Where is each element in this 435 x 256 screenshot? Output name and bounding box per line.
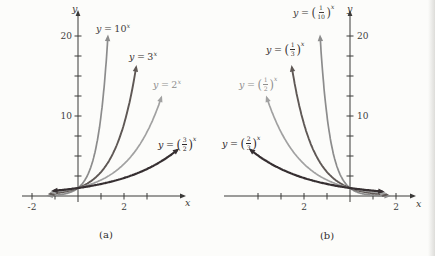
- x-tick-label: 2: [388, 203, 404, 212]
- label-exponent: x: [257, 135, 261, 142]
- x-axis-label: x: [185, 198, 190, 208]
- label-exponent: x: [177, 79, 181, 86]
- y-axis-label: y: [72, 4, 77, 14]
- label-exponent: x: [301, 41, 305, 48]
- fraction: 110: [317, 5, 325, 20]
- figure-b-plot: [218, 0, 435, 256]
- y-tick-label: 20: [52, 32, 72, 41]
- close-paren: ): [296, 43, 300, 57]
- y-equals-2-to-x-label: y=2x: [153, 80, 181, 90]
- label-base: 10: [114, 24, 126, 34]
- fraction-denominator: 3: [291, 50, 295, 57]
- y-equals-10-to-x-arrowhead: [105, 35, 110, 42]
- equals-sign: =: [166, 140, 174, 150]
- close-paren: ): [326, 6, 330, 20]
- label-variable: y: [239, 80, 244, 90]
- fraction-numerator: 1: [319, 5, 324, 13]
- fraction: 32: [182, 137, 187, 152]
- fraction-denominator: 2: [183, 145, 187, 152]
- label-variable: y: [158, 140, 163, 150]
- y-axis-label: y: [347, 4, 352, 14]
- exponential-functions-figure: (a) -221020xyy=10xy=3xy=2xy=(32)x (b) 22…: [0, 0, 435, 256]
- equals-sign: =: [247, 80, 255, 90]
- label-variable: y: [266, 45, 271, 55]
- y-equals-one-third-to-x-label: y=(13)x: [266, 42, 305, 57]
- scan-edge-artifact: [428, 0, 435, 256]
- fraction: 13: [290, 42, 295, 57]
- close-paren: ): [269, 78, 273, 92]
- fraction-denominator: 2: [264, 85, 268, 92]
- fraction-denominator: 3: [247, 144, 251, 151]
- open-paren: (: [241, 137, 245, 151]
- x-tick-label: 2: [296, 203, 312, 212]
- x-axis-label: x: [416, 199, 421, 209]
- y-equals-2-to-x-arrowhead: [157, 96, 162, 103]
- label-exponent: x: [193, 136, 197, 143]
- y-equals-one-half-to-x-arrowhead: [266, 96, 271, 103]
- equals-sign: =: [161, 80, 169, 90]
- fraction-numerator: 3: [182, 137, 187, 145]
- figure-b: (b) 221020xyy=(110)xy=(13)xy=(12)xy=(23)…: [218, 0, 435, 256]
- y-equals-one-tenth-to-x-curve: [320, 38, 388, 196]
- label-exponent: x: [274, 76, 278, 83]
- open-paren: (: [177, 138, 181, 152]
- y-equals-3-to-x-label: y=3x: [129, 52, 157, 62]
- y-equals-10-to-x-label: y=10x: [96, 24, 130, 34]
- y-equals-one-tenth-to-x-label: y=(110)x: [293, 5, 334, 20]
- close-paren: ): [252, 137, 256, 151]
- fraction-numerator: 2: [246, 136, 251, 144]
- label-exponent: x: [126, 23, 130, 30]
- fraction-denominator: 10: [317, 13, 325, 20]
- y-equals-3-halves-to-x-label: y=(32)x: [158, 137, 197, 152]
- y-equals-one-half-to-x-label: y=(12)x: [239, 77, 278, 92]
- label-variable: y: [293, 8, 298, 18]
- figure-a: (a) -221020xyy=10xy=3xy=2xy=(32)x: [0, 0, 218, 256]
- y-equals-3-to-x-curve: [51, 68, 136, 194]
- y-tick-label: 10: [52, 112, 72, 121]
- x-tick-label: -2: [24, 203, 40, 212]
- open-paren: (: [258, 78, 262, 92]
- fraction-numerator: 1: [263, 77, 268, 85]
- y-tick-label: 10: [357, 112, 377, 121]
- y-equals-two-thirds-to-x-label: y=(23)x: [222, 136, 261, 151]
- x-tick-label: 2: [116, 203, 132, 212]
- open-paren: (: [312, 6, 316, 20]
- y-equals-one-third-to-x-curve: [292, 68, 386, 195]
- fraction: 12: [263, 77, 268, 92]
- equals-sign: =: [230, 139, 238, 149]
- equals-sign: =: [104, 24, 112, 34]
- label-variable: y: [129, 52, 134, 62]
- y-equals-3-to-x-arrowhead: [133, 65, 138, 72]
- y-equals-one-tenth-to-x-arrowhead: [318, 35, 323, 42]
- label-variable: y: [96, 24, 101, 34]
- figure-a-plot: [0, 0, 218, 256]
- close-paren: ): [188, 138, 192, 152]
- label-exponent: x: [331, 4, 335, 11]
- y-equals-one-third-to-x-arrowhead: [290, 65, 295, 72]
- label-variable: y: [222, 139, 227, 149]
- label-variable: y: [153, 80, 158, 90]
- label-exponent: x: [153, 51, 157, 58]
- open-paren: (: [285, 43, 289, 57]
- fraction-numerator: 1: [290, 42, 295, 50]
- equals-sign: =: [301, 8, 309, 18]
- equals-sign: =: [274, 45, 282, 55]
- equals-sign: =: [137, 52, 145, 62]
- y-tick-label: 20: [357, 32, 377, 41]
- fraction: 23: [246, 136, 251, 151]
